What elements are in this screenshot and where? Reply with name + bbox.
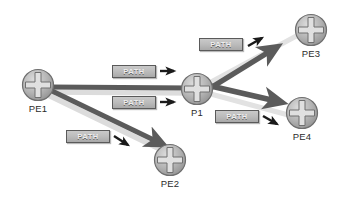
path-label-text: PATH xyxy=(226,112,248,121)
path-label-p1-pe3: PATH xyxy=(199,38,243,51)
path-label-text: PATH xyxy=(123,67,145,76)
path-label-text: PATH xyxy=(210,40,232,49)
link-pe1-p1-light xyxy=(48,92,196,93)
node-label-pe2: PE2 xyxy=(161,178,180,189)
path-label-pe1-p1-lower: PATH xyxy=(112,96,156,109)
router-icon xyxy=(180,72,214,106)
router-icon xyxy=(285,96,319,130)
path-label-text: PATH xyxy=(77,132,99,141)
arrow-path-p1-pe4 xyxy=(263,116,277,124)
node-p1[interactable]: P1 xyxy=(180,72,214,106)
path-label-pe1-p1-upper: PATH xyxy=(112,65,156,78)
path-label-pe1-pe2: PATH xyxy=(66,130,110,143)
path-label-p1-pe4: PATH xyxy=(215,110,259,123)
arrow-path-pe1-pe2 xyxy=(114,136,128,145)
node-label-pe1: PE1 xyxy=(29,103,48,114)
node-pe4[interactable]: PE4 xyxy=(285,96,319,130)
router-icon xyxy=(21,68,55,102)
path-label-text: PATH xyxy=(123,98,145,107)
node-pe3[interactable]: PE3 xyxy=(294,13,328,47)
link-pe1-p1-dark xyxy=(50,87,192,88)
router-icon xyxy=(153,143,187,177)
arrow-path-p1-pe3 xyxy=(248,38,262,46)
node-label-pe4: PE4 xyxy=(293,131,312,142)
node-pe1[interactable]: PE1 xyxy=(21,68,55,102)
node-label-p1: P1 xyxy=(191,107,203,118)
router-icon xyxy=(294,13,328,47)
network-diagram: PE1 P1 PE3 PE4 PE2 PATH PATH xyxy=(0,0,344,201)
node-label-pe3: PE3 xyxy=(302,48,321,59)
node-pe2[interactable]: PE2 xyxy=(153,143,187,177)
